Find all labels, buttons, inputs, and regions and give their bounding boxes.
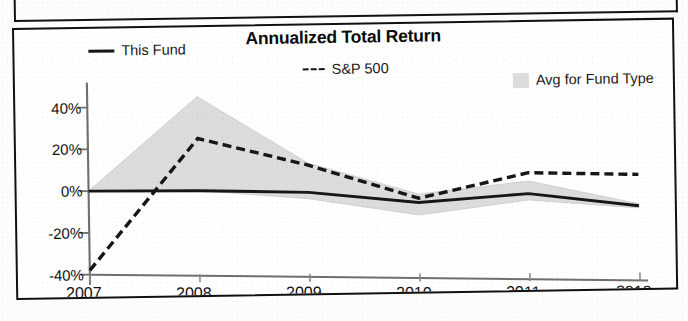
x-axis-tick-label: 2007 [66, 285, 102, 300]
x-axis-tick-label: 2012 [616, 283, 652, 300]
chart-panel: Annualized Total Return This Fund S&P 50… [12, 18, 678, 300]
x-axis-tick-label: 2008 [176, 285, 212, 300]
scanned-page: Annualized Total Return This Fund S&P 50… [0, 0, 688, 321]
ytd-label: YTD [662, 286, 678, 300]
x-axis-labels: 200720082009201020112012YTD [14, 20, 678, 300]
x-axis-tick-label: 2011 [506, 283, 541, 300]
x-axis-tick-label: 2009 [286, 284, 322, 300]
x-axis-tick-label: 2010 [396, 284, 432, 300]
